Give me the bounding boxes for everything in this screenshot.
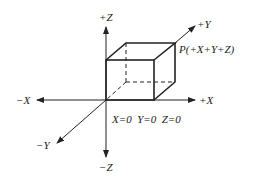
label-point-p: P(+X+Y+Z) (178, 43, 235, 56)
label-neg-z: −Z (99, 161, 113, 173)
label-pos-x: +X (199, 94, 214, 106)
cube (106, 43, 175, 100)
label-neg-y: −Y (36, 139, 51, 151)
label-neg-x: −X (16, 94, 31, 106)
coordinate-diagram: +Z −Z +X −X +Y −Y P(+X+Y+Z) X=0 Y=0 Z=0 (0, 0, 258, 181)
y-axis-negative (57, 100, 106, 143)
y-axis-positive (175, 26, 195, 43)
label-pos-z: +Z (99, 11, 113, 23)
label-pos-y: +Y (197, 18, 212, 30)
label-origin: X=0 Y=0 Z=0 (111, 113, 181, 125)
